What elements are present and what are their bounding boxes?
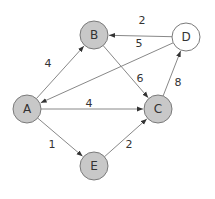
edge-weight-label: 8 <box>175 76 182 89</box>
node-c: C <box>144 95 172 123</box>
node-label: C <box>154 102 162 116</box>
node-a: A <box>13 95 41 123</box>
directed-graph: 42568412 ABCDE <box>0 0 215 199</box>
edge-weight-label: 5 <box>136 37 143 50</box>
node-label: B <box>90 28 98 42</box>
node-e: E <box>80 152 108 180</box>
edge-weight-label: 4 <box>86 97 93 110</box>
edge-weight-label: 1 <box>49 138 56 151</box>
edge-weight-label: 4 <box>45 57 52 70</box>
node-label: E <box>90 159 98 173</box>
edge-weight-label: 2 <box>139 14 146 27</box>
edge-d-to-a <box>41 43 174 103</box>
node-label: A <box>23 102 32 116</box>
edge-a-to-e <box>38 118 83 156</box>
edge-weight-label: 2 <box>126 138 133 151</box>
node-label: D <box>181 30 190 44</box>
edge-weight-label: 6 <box>137 72 144 85</box>
node-b: B <box>80 21 108 49</box>
node-d: D <box>172 23 200 51</box>
edge-c-to-d <box>163 51 181 96</box>
nodes-layer: ABCDE <box>13 21 200 180</box>
edge-a-to-b <box>36 46 84 99</box>
edge-labels-layer: 42568412 <box>45 14 182 151</box>
